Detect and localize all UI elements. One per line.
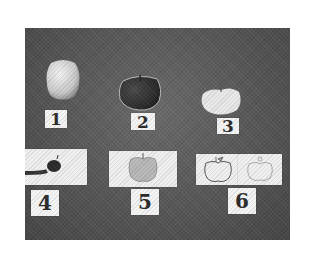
picture-card-6b bbox=[238, 154, 282, 185]
apple-drawing-icon bbox=[109, 151, 177, 187]
apple-outline-icon bbox=[196, 154, 240, 185]
label-card-5: 5 bbox=[131, 189, 159, 215]
picture-card-5 bbox=[109, 151, 177, 187]
apple-3 bbox=[199, 84, 243, 116]
label-card-6: 6 bbox=[228, 188, 256, 214]
picture-card-6a bbox=[196, 154, 240, 185]
label-card-2: 2 bbox=[131, 113, 155, 130]
picture-card-4 bbox=[25, 149, 87, 185]
apple-1 bbox=[43, 57, 83, 101]
photograph: 1 2 3 4 5 bbox=[25, 28, 290, 240]
apple-2 bbox=[117, 73, 163, 111]
label-card-3: 3 bbox=[217, 118, 239, 134]
apple-silhouette-icon bbox=[25, 149, 87, 185]
label-card-1: 1 bbox=[45, 110, 67, 128]
apple-outline-icon bbox=[238, 154, 282, 185]
label-card-4: 4 bbox=[31, 190, 59, 216]
